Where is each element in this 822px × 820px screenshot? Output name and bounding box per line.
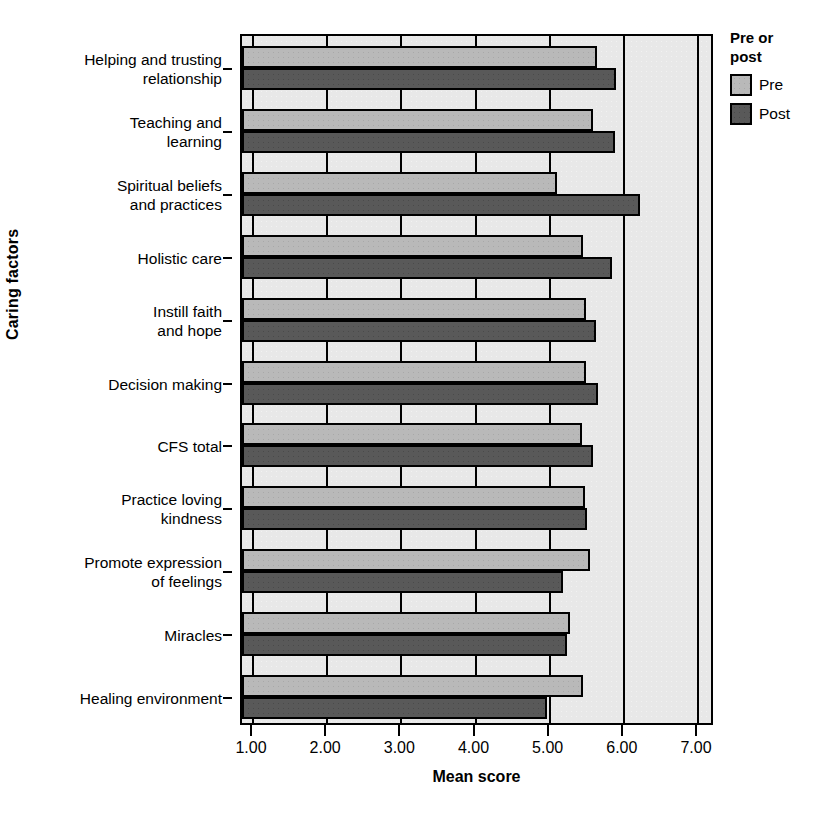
plot-area	[240, 34, 713, 725]
category-label-6: CFS total	[22, 437, 222, 456]
x-tick-3.00	[398, 725, 400, 736]
gridline-7.00	[697, 36, 699, 723]
x-tick-label-3.00: 3.00	[364, 739, 434, 757]
bar-pre-9	[242, 612, 570, 634]
category-label-3: Holistic care	[22, 248, 222, 267]
category-label-0: Helping and trusting relationship	[22, 50, 222, 88]
legend-entries: PrePost	[730, 74, 820, 125]
category-tick-6	[223, 445, 232, 447]
x-tick-6.00	[621, 725, 623, 736]
x-tick-2.00	[324, 725, 326, 736]
bar-post-0	[242, 68, 616, 90]
bar-chart-figure: Caring factors Helping and trusting rela…	[0, 0, 822, 820]
legend-label-pre: Pre	[759, 76, 783, 94]
category-label-4: Instill faith and hope	[22, 302, 222, 340]
category-axis-labels: Helping and trusting relationshipTeachin…	[30, 34, 232, 725]
category-label-5: Decision making	[22, 374, 222, 393]
category-label-1: Teaching and learning	[22, 113, 222, 151]
category-label-7: Practice loving kindness	[22, 490, 222, 528]
category-tick-9	[223, 634, 232, 636]
category-tick-10	[223, 697, 232, 699]
category-tick-8	[223, 571, 232, 573]
gridline-6.00	[623, 36, 625, 723]
x-tick-5.00	[547, 725, 549, 736]
category-label-8: Promote expression of feelings	[22, 553, 222, 591]
legend-swatch-pre	[730, 74, 752, 96]
bar-pre-4	[242, 298, 586, 320]
bar-pre-7	[242, 486, 585, 508]
bar-post-9	[242, 634, 567, 656]
legend-item-pre: Pre	[730, 74, 820, 96]
category-tick-4	[223, 320, 232, 322]
bar-pre-2	[242, 172, 557, 194]
bar-pre-8	[242, 549, 590, 571]
bar-pre-10	[242, 675, 583, 697]
legend-label-post: Post	[759, 105, 790, 123]
bar-post-4	[242, 320, 596, 342]
category-label-9: Miracles	[22, 625, 222, 644]
bar-post-10	[242, 697, 547, 719]
bar-pre-6	[242, 423, 582, 445]
bar-pre-3	[242, 235, 583, 257]
x-axis-ticks	[240, 725, 713, 737]
x-tick-label-2.00: 2.00	[290, 739, 360, 757]
category-tick-2	[223, 194, 232, 196]
bar-post-6	[242, 445, 593, 467]
bar-post-8	[242, 571, 563, 593]
category-tick-7	[223, 508, 232, 510]
x-axis-tick-labels: 1.002.003.004.005.006.007.00	[240, 739, 713, 761]
x-tick-label-1.00: 1.00	[216, 739, 286, 757]
x-tick-label-5.00: 5.00	[513, 739, 583, 757]
x-tick-4.00	[473, 725, 475, 736]
bar-post-2	[242, 194, 640, 216]
legend-title: Pre or post	[730, 28, 820, 66]
x-tick-label-7.00: 7.00	[661, 739, 731, 757]
x-tick-label-6.00: 6.00	[587, 739, 657, 757]
legend-swatch-post	[730, 103, 752, 125]
bar-pre-0	[242, 46, 597, 68]
bar-post-7	[242, 508, 587, 530]
category-label-10: Healing environment	[22, 688, 222, 707]
bar-post-3	[242, 257, 612, 279]
bar-pre-5	[242, 361, 586, 383]
y-axis-title: Caring factors	[4, 40, 22, 340]
x-tick-1.00	[250, 725, 252, 736]
category-tick-3	[223, 257, 232, 259]
x-tick-label-4.00: 4.00	[439, 739, 509, 757]
x-tick-7.00	[695, 725, 697, 736]
category-tick-0	[223, 68, 232, 70]
bar-post-1	[242, 131, 615, 153]
category-label-2: Spiritual beliefs and practices	[22, 176, 222, 214]
bar-pre-1	[242, 109, 593, 131]
category-tick-5	[223, 383, 232, 385]
x-axis-title: Mean score	[240, 768, 713, 786]
legend: Pre or post PrePost	[730, 28, 820, 132]
bar-post-5	[242, 383, 598, 405]
legend-item-post: Post	[730, 103, 820, 125]
category-tick-1	[223, 131, 232, 133]
